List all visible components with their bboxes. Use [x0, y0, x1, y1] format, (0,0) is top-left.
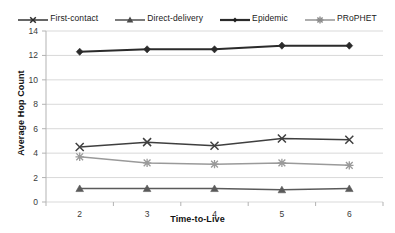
series-epidemic — [76, 42, 352, 55]
gridlines — [42, 31, 383, 202]
line-chart: First-contact Direct-delivery Epidemic — [0, 0, 395, 233]
x-axis-title: Time-to-Live — [0, 214, 395, 224]
plot-area: 02468101214 23456 — [0, 0, 395, 233]
data-series-layer — [76, 42, 354, 193]
y-tick-label: 0 — [16, 197, 38, 207]
plot-canvas — [0, 0, 395, 233]
y-tick-label: 14 — [16, 26, 38, 36]
series-direct-delivery — [76, 185, 353, 193]
y-axis-title: Average Hop Count — [16, 38, 26, 188]
series-prophet — [76, 153, 354, 170]
x-tick-marks — [46, 202, 383, 206]
series-first-contact — [76, 134, 354, 151]
